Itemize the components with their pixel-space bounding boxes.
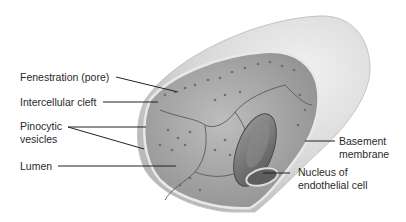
label-endothelial-cell: endothelial cell — [298, 179, 367, 192]
label-lumen: Lumen — [20, 160, 52, 173]
label-membrane: membrane — [339, 148, 389, 161]
label-intercellular-cleft: Intercellular cleft — [20, 96, 96, 109]
label-fenestration: Fenestration (pore) — [20, 71, 109, 84]
label-nucleus-of: Nucleus of — [298, 166, 348, 179]
label-basement: Basement — [339, 135, 386, 148]
label-pinocytic: Pinocytic — [20, 120, 62, 133]
label-vesicles: vesicles — [20, 133, 57, 146]
